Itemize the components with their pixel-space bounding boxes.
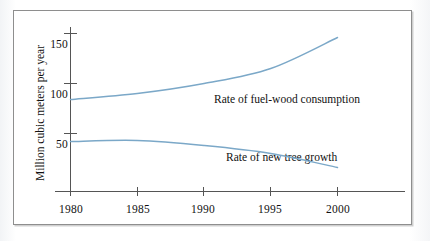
- plot-area: [0, 0, 430, 241]
- line-series-fuel-wood-consumption: [71, 38, 338, 100]
- line-series-new-tree-growth: [71, 140, 338, 167]
- chart-page: Million cubic meters per year 150 100 50…: [0, 0, 430, 241]
